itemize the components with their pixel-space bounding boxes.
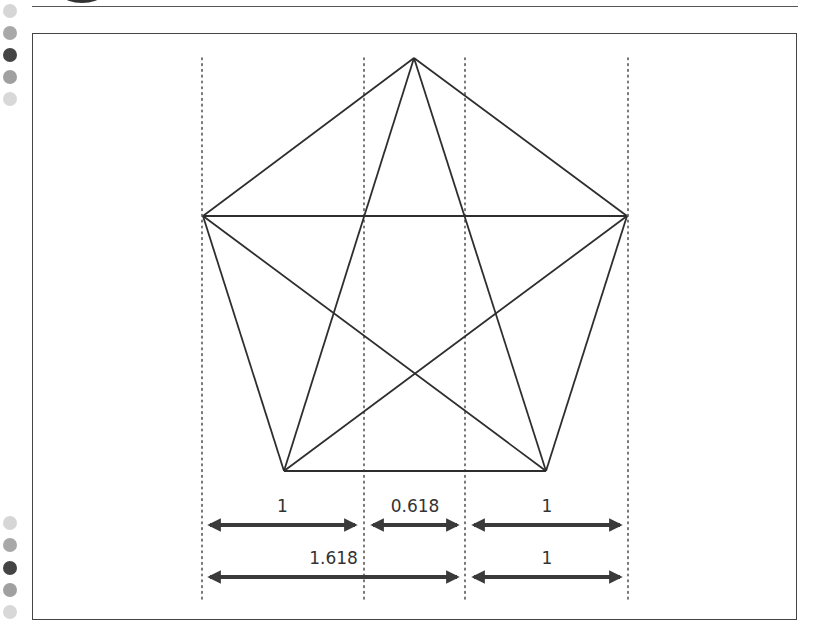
pentagon-edge <box>203 216 284 471</box>
dimension-label: 1 <box>542 496 553 516</box>
dimension-arrows <box>210 525 620 577</box>
dimension-label: 1 <box>277 496 288 516</box>
pentagram-diagram <box>0 0 815 632</box>
pentagram-diagonal <box>284 216 627 471</box>
pentagon-edge <box>414 58 627 216</box>
dotted-guide-lines <box>202 58 628 600</box>
dimension-label: 1.618 <box>309 548 358 568</box>
pentagon-edge <box>546 216 627 471</box>
dimension-label: 1 <box>542 548 553 568</box>
pentagon-and-star <box>203 58 627 471</box>
pentagon-edge <box>203 58 414 216</box>
dimension-label: 0.618 <box>391 496 440 516</box>
pentagram-diagonal <box>284 58 414 471</box>
pentagram-diagonal <box>414 58 546 471</box>
pentagram-diagonal <box>203 216 546 471</box>
